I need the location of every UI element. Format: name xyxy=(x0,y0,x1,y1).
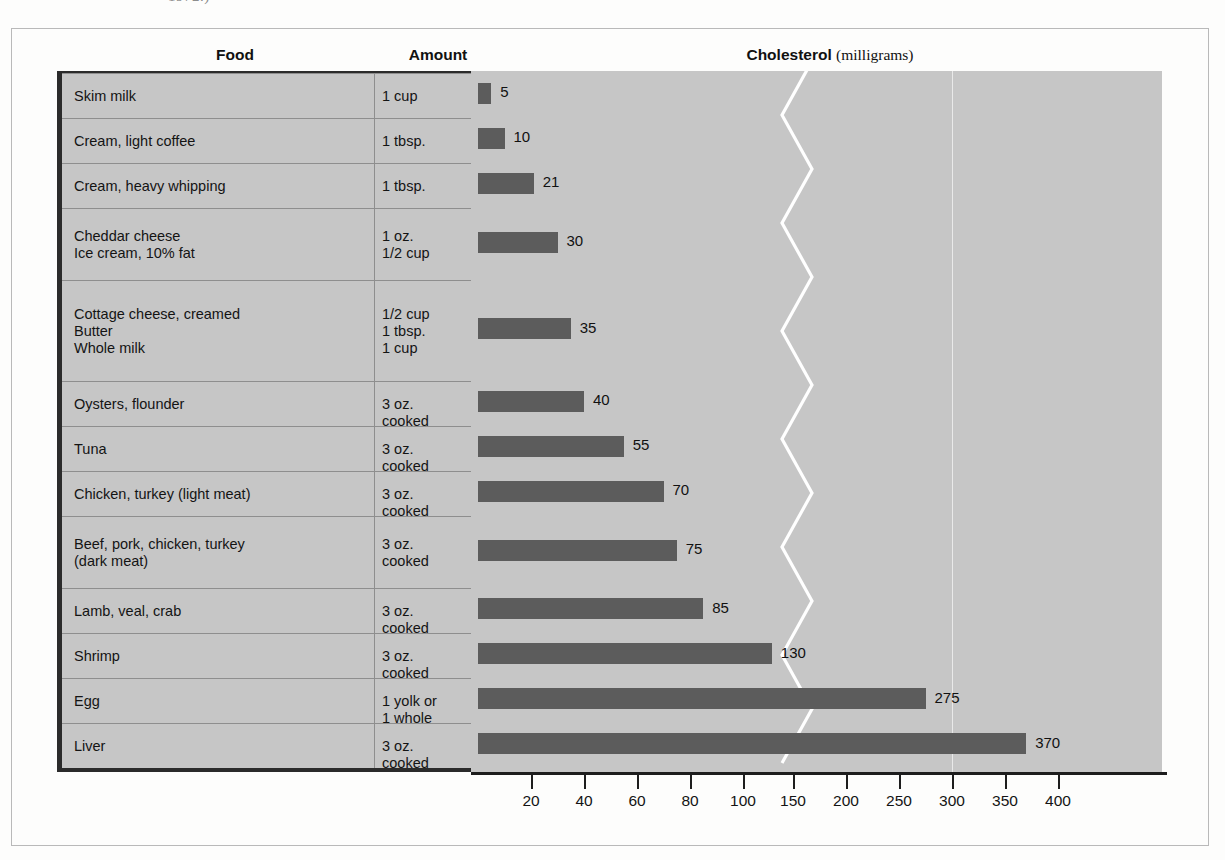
x-axis-tick xyxy=(899,775,901,789)
x-axis-tick-label: 40 xyxy=(575,792,592,810)
table-cell-amount: 3 oz. cooked xyxy=(382,396,429,430)
x-axis-tick xyxy=(743,775,745,789)
x-axis-tick-label: 350 xyxy=(992,792,1018,810)
table-cell-amount: 1 cup xyxy=(382,88,417,105)
table-cell-food: Cream, heavy whipping xyxy=(74,178,226,195)
x-axis-tick xyxy=(793,775,795,789)
bar-value-label: 130 xyxy=(781,644,806,661)
x-axis-tick xyxy=(1005,775,1007,789)
bar xyxy=(478,232,558,253)
bar-value-label: 21 xyxy=(543,173,560,190)
bar-value-label: 10 xyxy=(514,128,531,145)
x-axis-tick xyxy=(952,775,954,789)
bar xyxy=(478,643,772,664)
table-cell-food: Egg xyxy=(74,693,100,710)
x-axis-tick-label: 200 xyxy=(833,792,859,810)
table-row: Cheddar cheese Ice cream, 10% fat1 oz. 1… xyxy=(62,208,471,281)
x-axis-tick xyxy=(584,775,586,789)
x-axis-tick-label: 20 xyxy=(522,792,539,810)
table-cell-amount: 1/2 cup 1 tbsp. 1 cup xyxy=(382,306,430,357)
chart-page: 1972.) Food Amount Cholesterol (milligra… xyxy=(0,0,1225,860)
table-cell-amount: 3 oz. cooked xyxy=(382,603,429,637)
table-cell-amount: 3 oz. cooked xyxy=(382,738,429,772)
table-cell-food: Beef, pork, chicken, turkey (dark meat) xyxy=(74,536,245,570)
x-axis-tick-label: 400 xyxy=(1045,792,1071,810)
x-axis-tick-label: 300 xyxy=(939,792,965,810)
bar-value-label: 55 xyxy=(633,436,650,453)
bar-value-label: 40 xyxy=(593,391,610,408)
x-axis-tick-label: 60 xyxy=(628,792,645,810)
table-cell-food: Shrimp xyxy=(74,648,120,665)
x-axis-tick-label: 80 xyxy=(681,792,698,810)
x-axis-tick xyxy=(846,775,848,789)
bar xyxy=(478,83,491,104)
bar xyxy=(478,481,664,502)
food-amount-table: Skim milk1 cupCream, light coffee1 tbsp.… xyxy=(57,71,471,772)
table-cell-food: Lamb, veal, crab xyxy=(74,603,181,620)
table-row: Cottage cheese, creamed Butter Whole mil… xyxy=(62,280,471,381)
column-header-cholesterol: Cholesterol (milligrams) xyxy=(640,46,1020,64)
x-axis-tick xyxy=(1058,775,1060,789)
table-row: Oysters, flounder3 oz. cooked xyxy=(62,381,471,426)
bar xyxy=(478,688,926,709)
x-axis-tick-label: 100 xyxy=(730,792,756,810)
table-cell-amount: 1 tbsp. xyxy=(382,178,426,195)
x-axis-tick-label: 150 xyxy=(780,792,806,810)
table-row: Skim milk1 cup xyxy=(62,73,471,118)
table-row: Shrimp3 oz. cooked xyxy=(62,633,471,678)
bar-value-label: 70 xyxy=(673,481,690,498)
table-cell-amount: 1 yolk or 1 whole xyxy=(382,693,437,727)
column-header-amount: Amount xyxy=(378,46,498,64)
cholesterol-header-text: Cholesterol xyxy=(746,46,831,63)
table-cell-food: Cheddar cheese Ice cream, 10% fat xyxy=(74,228,195,262)
table-cell-amount: 1 oz. 1/2 cup xyxy=(382,228,430,262)
bar-value-label: 30 xyxy=(567,232,584,249)
bar xyxy=(478,598,703,619)
table-cell-food: Cream, light coffee xyxy=(74,133,195,150)
table-row: Lamb, veal, crab3 oz. cooked xyxy=(62,588,471,633)
table-row: Cream, heavy whipping1 tbsp. xyxy=(62,163,471,208)
table-row: Tuna3 oz. cooked xyxy=(62,426,471,471)
table-row: Cream, light coffee1 tbsp. xyxy=(62,118,471,163)
x-axis-line xyxy=(471,772,1167,775)
table-cell-amount: 3 oz. cooked xyxy=(382,486,429,520)
bar xyxy=(478,733,1026,754)
table-cell-food: Skim milk xyxy=(74,88,136,105)
bar xyxy=(478,391,584,412)
bars-layer: 5102130354055707585130275370 xyxy=(471,71,1162,772)
bar xyxy=(478,128,505,149)
x-axis-tick xyxy=(690,775,692,789)
table-row: Chicken, turkey (light meat)3 oz. cooked xyxy=(62,471,471,516)
bar-value-label: 75 xyxy=(686,540,703,557)
table-cell-food: Cottage cheese, creamed Butter Whole mil… xyxy=(74,306,240,357)
bar xyxy=(478,436,624,457)
bar-value-label: 5 xyxy=(500,83,508,100)
bar-value-label: 370 xyxy=(1035,734,1060,751)
table-cell-food: Liver xyxy=(74,738,105,755)
bar-value-label: 35 xyxy=(580,319,597,336)
table-cell-amount: 3 oz. cooked xyxy=(382,648,429,682)
bar xyxy=(478,173,534,194)
table-cell-food: Oysters, flounder xyxy=(74,396,184,413)
table-cell-amount: 3 oz. cooked xyxy=(382,536,429,570)
column-header-food: Food xyxy=(135,46,335,64)
bar xyxy=(478,540,677,561)
x-axis-tick xyxy=(637,775,639,789)
bar-value-label: 275 xyxy=(935,689,960,706)
table-row: Beef, pork, chicken, turkey (dark meat)3… xyxy=(62,516,471,589)
table-cell-amount: 3 oz. cooked xyxy=(382,441,429,475)
caption-tail-text: 1972.) xyxy=(168,0,210,5)
x-axis-tick-label: 250 xyxy=(886,792,912,810)
table-cell-food: Tuna xyxy=(74,441,107,458)
table-row: Egg1 yolk or 1 whole xyxy=(62,678,471,723)
bar-value-label: 85 xyxy=(712,599,729,616)
table-row: Liver3 oz. cooked xyxy=(62,723,471,768)
bar xyxy=(478,318,571,339)
cholesterol-header-unit: (milligrams) xyxy=(836,46,914,63)
table-cell-food: Chicken, turkey (light meat) xyxy=(74,486,250,503)
x-axis-tick xyxy=(531,775,533,789)
table-cell-amount: 1 tbsp. xyxy=(382,133,426,150)
